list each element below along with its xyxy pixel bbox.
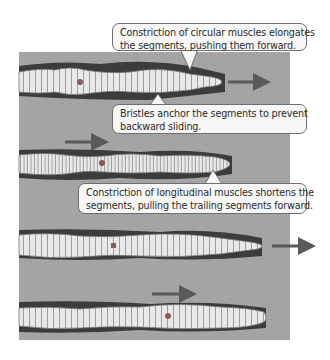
- callout-text: Constriction of circular muscles elongat…: [120, 27, 299, 40]
- clitellum-dot: [77, 79, 83, 85]
- clitellum-dot: [99, 160, 105, 166]
- worm-stage-4: [19, 301, 266, 332]
- callout-text: Constriction of longitudinal muscles sho…: [86, 187, 299, 200]
- worm-stage-2: [19, 149, 232, 180]
- clitellum-dot: [111, 243, 116, 248]
- callout-circular-muscles: Constriction of circular muscles elongat…: [112, 23, 307, 51]
- worm-stage-1: [19, 62, 262, 100]
- callout-text: the segments, pushing them forward.: [120, 40, 299, 53]
- clitellum-dot: [165, 313, 171, 319]
- callout-text: segments, pulling the trailing segments …: [86, 200, 299, 213]
- callout-bristles: Bristles anchor the segments to prevent …: [112, 104, 307, 134]
- worm-stage-3: [19, 229, 307, 260]
- worm-illustration: [0, 0, 330, 360]
- callout-longitudinal-muscles: Constriction of longitudinal muscles sho…: [78, 183, 307, 214]
- callout-text: backward sliding.: [120, 121, 299, 134]
- callout-text: Bristles anchor the segments to prevent: [120, 108, 299, 121]
